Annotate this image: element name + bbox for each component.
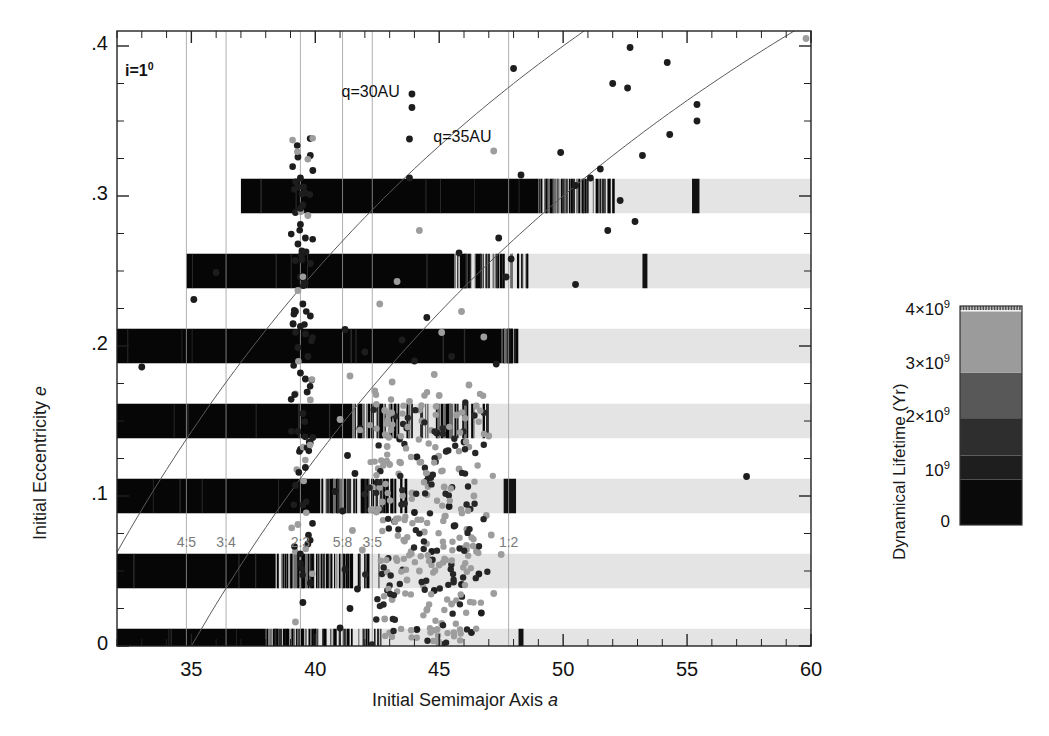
colorbar-tick-label: 2×109 [850,405,950,427]
y-axis-label-symbol: e [30,386,50,396]
colorbar-tick-label: 0 [850,512,950,532]
y-tick-label: .4 [60,32,108,55]
y-tick-label: .3 [60,182,108,205]
resonance-label: 5:8 [329,534,357,550]
colorbar-tick-label: 109 [850,459,950,481]
x-tick-label: 50 [549,658,577,681]
colorbar [960,306,1022,525]
x-axis-label-text: Initial Semimajor Axis [372,690,548,710]
inclination-text: i=1 [125,62,148,79]
y-tick-label: 0 [60,632,108,655]
y-tick-label: .2 [60,332,108,355]
inclination-superscript: 0 [148,60,154,72]
colorbar-tick-label: 3×109 [850,352,950,374]
resonance-label: 4:5 [172,534,200,550]
lifetime-strip [117,329,811,364]
colorbar-tick-label: 4×109 [850,298,950,320]
x-axis-label: Initial Semimajor Axis a [0,690,930,711]
x-tick-label: 40 [301,658,329,681]
perihelion-annotation: q=30AU [342,83,400,101]
y-axis-label-text: Initial Eccentricity [30,396,50,540]
lifetime-strip [241,179,811,214]
inclination-annotation: i=10 [125,60,154,80]
x-tick-label: 45 [425,658,453,681]
resonance-label: 1:2 [495,534,523,550]
x-tick-label: 35 [177,658,205,681]
x-tick-label: 55 [673,658,701,681]
resonance-label: 3:5 [358,534,386,550]
y-tick-label: .1 [60,482,108,505]
resonance-label: 3:4 [212,534,240,550]
x-axis-label-symbol: a [548,690,558,710]
y-axis-label: Initial Eccentricity e [30,386,51,540]
perihelion-annotation: q=35AU [433,128,491,146]
x-tick-label: 60 [797,658,825,681]
lifetime-strip [186,254,811,289]
resonance-label: 2:3 [286,534,314,550]
